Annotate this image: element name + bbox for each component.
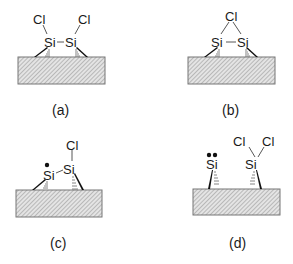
atom-si-left: Si — [43, 168, 55, 183]
figure-canvas: Si Si Cl Cl (a) Si Si Cl (b) — [0, 0, 293, 264]
atom-si-left: Si — [44, 35, 56, 50]
panel-c: Si Si Cl (c) — [16, 138, 102, 251]
atom-cl: Cl — [66, 138, 78, 153]
wedge-bond-right — [256, 170, 262, 189]
atom-si-right: Si — [65, 35, 77, 50]
substrate-block — [193, 189, 280, 215]
panel-label: (c) — [50, 235, 66, 251]
panel-label: (a) — [52, 102, 69, 118]
panel-label: (b) — [222, 102, 239, 118]
hash-bond-left — [45, 50, 50, 56]
hash-bond-left — [215, 50, 220, 56]
si-cl-bond-a — [249, 147, 255, 157]
atom-si-left: Si — [206, 157, 218, 172]
hash-bond-right — [250, 172, 255, 184]
radical-dot — [45, 163, 49, 167]
substrate-block — [16, 190, 102, 217]
atom-si-right: Si — [245, 157, 257, 172]
panel-d: Si Si Cl Cl (d) — [193, 134, 280, 251]
hash-bond-left — [214, 172, 219, 184]
atom-si-left: Si — [211, 35, 223, 50]
atom-cl-b: Cl — [262, 134, 274, 149]
substrate-block — [188, 57, 275, 84]
panel-a: Si Si Cl Cl (a) — [18, 12, 105, 118]
atom-si-right: Si — [63, 162, 75, 177]
si-si-bond — [56, 170, 63, 173]
wedge-bond-right — [74, 173, 84, 190]
atom-cl-bridge: Cl — [225, 9, 237, 24]
panel-label: (d) — [229, 235, 246, 251]
panel-b: Si Si Cl (b) — [188, 9, 275, 118]
atom-cl-right: Cl — [78, 12, 90, 27]
atom-cl-left: Cl — [33, 12, 45, 27]
wedge-bond-left — [208, 170, 213, 189]
atom-si-right: Si — [237, 35, 249, 50]
atom-cl-a: Cl — [233, 134, 245, 149]
substrate-block — [18, 57, 105, 84]
